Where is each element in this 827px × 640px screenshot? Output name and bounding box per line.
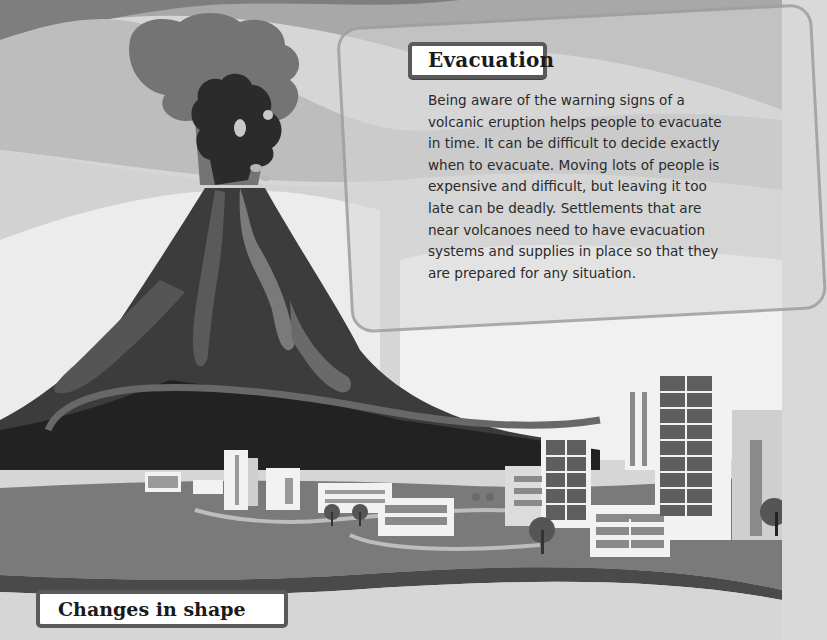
- body-line: late can be deadly. Settlements that are: [428, 198, 758, 220]
- body-line: volcanic eruption helps people to evacua…: [428, 112, 758, 134]
- ash-spot: [250, 164, 262, 172]
- body-line: when to evacuate. Moving lots of people …: [428, 155, 758, 177]
- section-heading: Evacuation: [428, 46, 554, 75]
- ash-spot: [261, 175, 271, 181]
- body-line: expensive and difficult, but leaving it …: [428, 176, 758, 198]
- next-section-heading: Changes in shape: [58, 594, 246, 624]
- body-line: near volcanoes need to have evacuation: [428, 220, 758, 242]
- section-body: Being aware of the warning signs of a vo…: [428, 90, 758, 284]
- body-line: Being aware of the warning signs of a: [428, 90, 758, 112]
- changes-in-shape-heading-box: Changes in shape: [36, 590, 288, 628]
- body-line: are prepared for any situation.: [428, 263, 758, 285]
- body-line: in time. It can be difficult to decide e…: [428, 133, 758, 155]
- evacuation-heading-box: Evacuation: [408, 42, 547, 79]
- ash-spot: [263, 110, 273, 120]
- ash-spot: [234, 119, 246, 137]
- body-line: systems and supplies in place so that th…: [428, 241, 758, 263]
